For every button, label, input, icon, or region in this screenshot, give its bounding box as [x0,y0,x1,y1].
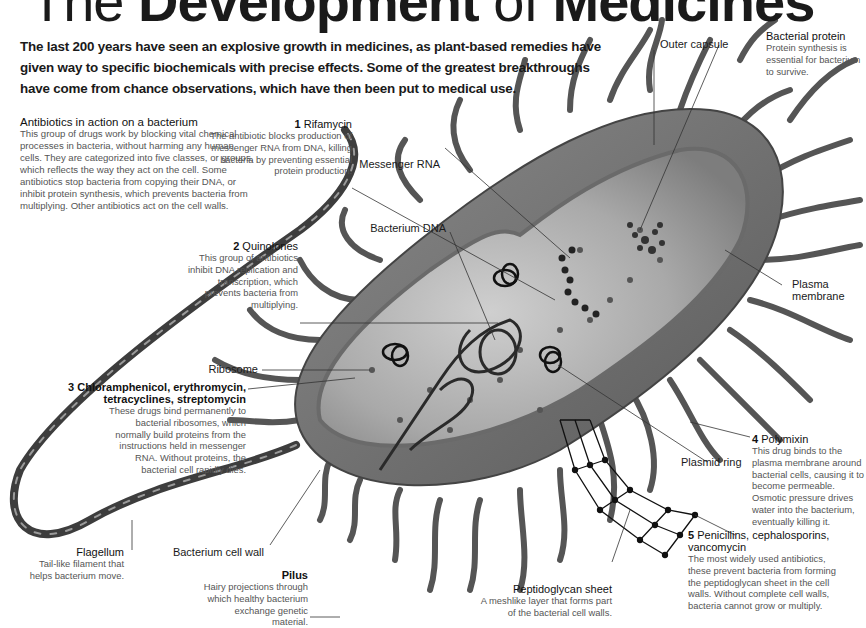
part-name: Pilus [200,569,308,581]
label-plasma-membrane: Plasma membrane [792,278,852,302]
page-title: The Development of Medicines [30,0,814,32]
antibiotic-description: The antibiotic blocks production of mess… [196,130,352,177]
intro-paragraph: The last 200 years have seen an explosiv… [20,36,620,99]
antibiotic-3-chloramphenicol: 3 Chloramphenicol, erythromycin, tetracy… [44,381,246,476]
part-description: Hairy projections through which healthy … [200,581,308,628]
part-name: Peptidoglycan sheet [478,583,612,595]
label-peptidoglycan-sheet: Peptidoglycan sheet A meshlike layer tha… [478,583,612,619]
label-messenger-rna: Messenger RNA [340,158,440,170]
title-part-of: of [479,0,553,33]
antibiotic-5-penicillins: 5 Penicillins, cephalosporins, vancomyci… [688,529,838,612]
title-part-development: Development [138,0,479,33]
part-description: Protein synthesis is essential for bacte… [766,42,866,77]
label-pilus: Pilus Hairy projections through which he… [200,569,308,628]
label-plasmid-ring: Plasmid ring [681,456,761,468]
antibiotic-name: Chloramphenicol, erythromycin, tetracycl… [77,381,246,405]
label-outer-capsule: Outer capsule [660,38,740,50]
peptidoglycan-mesh [560,420,698,558]
label-bacterium-dna: Bacterium DNA [340,222,446,234]
antibiotic-name: Quinolones [242,240,298,252]
label-bacterial-protein: Bacterial protein Protein synthesis is e… [766,30,866,77]
antibiotic-description: This drug binds to the plasma membrane a… [752,445,866,528]
label-bacterium-cell-wall: Bacterium cell wall [160,546,264,558]
antibiotic-description: These drugs bind permanently to bacteria… [44,405,246,476]
part-name: Bacterial protein [766,30,866,42]
antibiotic-number: 1 [295,118,301,130]
antibiotic-description: The most widely used antibiotics, these … [688,553,838,612]
antibiotic-1-rifamycin: 1 Rifamycin The antibiotic blocks produc… [196,118,352,177]
antibiotic-number: 3 [68,381,74,393]
part-description: A meshlike layer that forms part of the … [478,595,612,619]
title-part-the: The [30,0,138,33]
antibiotic-name: Rifamycin [304,118,352,130]
antibiotic-number: 4 [752,433,758,445]
antibiotic-4-polymixin: 4 Polymixin This drug binds to the plasm… [752,433,866,528]
label-flagellum: Flagellum Tail-like filament that helps … [20,546,124,582]
antibiotic-name: Polymixin [761,433,808,445]
antibiotic-name: Penicillins, cephalosporins, vancomycin [688,529,829,553]
antibiotic-2-quinolones: 2 Quinolones This group of antibiotics i… [180,240,298,311]
part-name: Flagellum [20,546,124,558]
part-description: Tail-like filament that helps bacterium … [20,558,124,582]
title-part-medicines: Medicines [553,0,815,33]
label-ribosome: Ribosome [150,363,258,375]
antibiotic-description: This group of antibiotics inhibit DNA re… [180,252,298,311]
antibiotic-number: 5 [688,529,694,541]
antibiotic-number: 2 [233,240,239,252]
